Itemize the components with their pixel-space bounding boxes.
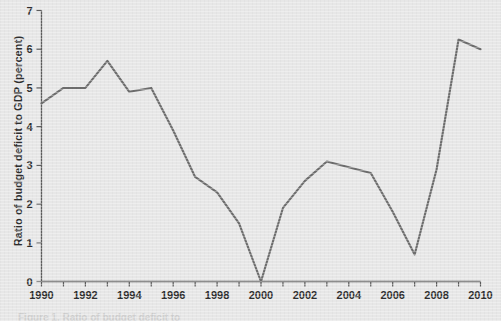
x-tick-label: 1990	[29, 289, 53, 301]
y-tick-label: 0	[26, 276, 32, 288]
y-tick-label: 3	[26, 159, 32, 171]
x-tick-label: 2002	[293, 289, 317, 301]
figure-container: 0123456719901992199419961998200020022004…	[0, 0, 501, 321]
x-tick-label: 1994	[117, 289, 142, 301]
y-tick-label: 4	[26, 121, 33, 133]
y-axis-title: Ratio of budget deficit to GDP (percent)	[12, 10, 24, 272]
y-tick-label: 5	[26, 82, 32, 94]
x-tick-label: 2000	[249, 289, 273, 301]
x-tick-label: 2008	[424, 289, 448, 301]
x-tick-label: 2006	[380, 289, 404, 301]
x-tick-label: 1998	[205, 289, 229, 301]
figure-caption: Figure 1. Ratio of budget deficit to	[18, 312, 180, 321]
data-series-line	[42, 40, 481, 282]
x-tick-label: 1996	[161, 289, 185, 301]
x-tick-label: 2004	[337, 289, 362, 301]
y-tick-label: 6	[26, 43, 32, 55]
x-tick-label: 2010	[468, 289, 492, 301]
y-tick-label: 2	[26, 198, 32, 210]
line-chart: 0123456719901992199419961998200020022004…	[0, 0, 501, 321]
y-tick-label: 1	[26, 237, 32, 249]
x-tick-label: 1992	[73, 289, 97, 301]
y-tick-label: 7	[26, 5, 32, 17]
